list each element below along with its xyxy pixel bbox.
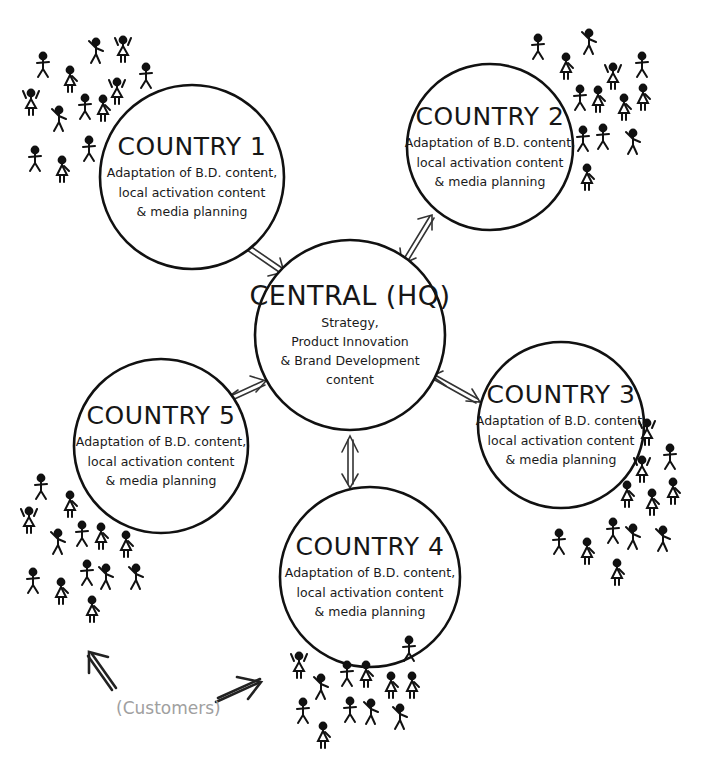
central-desc-line: Product Innovation (280, 333, 419, 352)
customers-arrow-left (88, 652, 116, 690)
central-desc-line: & Brand Development (280, 352, 419, 371)
central-hq-node: CENTRAL (HQ) Strategy, Product Innovatio… (255, 240, 445, 430)
country-4-title: COUNTRY 4 (296, 533, 445, 561)
country-5-description: Adaptation of B.D. content, local activa… (76, 432, 246, 490)
country-4-description: Adaptation of B.D. content, local activa… (285, 563, 455, 621)
country-desc-line: & media planning (285, 602, 455, 621)
country-desc-line: Adaptation of B.D. content, (107, 163, 277, 182)
country-3-description: Adaptation of B.D. content, local activa… (476, 411, 646, 469)
country-desc-line: & media planning (476, 450, 646, 469)
country-1-title: COUNTRY 1 (118, 133, 267, 161)
connection-central-country-4 (342, 436, 358, 488)
country-2-description: Adaptation of B.D. content, local activa… (405, 133, 575, 191)
customers-arrow-right (216, 677, 261, 702)
country-1-node: COUNTRY 1 Adaptation of B.D. content, lo… (100, 90, 284, 264)
country-desc-line: & media planning (76, 471, 246, 490)
country-desc-line: & media planning (405, 172, 575, 191)
central-hq-description: Strategy, Product Innovation & Brand Dev… (280, 314, 419, 389)
country-2-node: COUNTRY 2 Adaptation of B.D. content, lo… (405, 64, 575, 230)
country-3-node: COUNTRY 3 Adaptation of B.D. content, lo… (476, 342, 646, 508)
country-5-title: COUNTRY 5 (87, 402, 236, 430)
country-desc-line: local activation content (405, 153, 575, 172)
country-desc-line: & media planning (107, 202, 277, 221)
country-1-description: Adaptation of B.D. content, local activa… (107, 163, 277, 221)
central-hq-title: CENTRAL (HQ) (250, 281, 451, 311)
country-3-title: COUNTRY 3 (487, 381, 636, 409)
country-desc-line: local activation content (285, 583, 455, 602)
country-desc-line: Adaptation of B.D. content, (76, 432, 246, 451)
central-desc-line: Strategy, (280, 314, 419, 333)
country-5-node: COUNTRY 5 Adaptation of B.D. content, lo… (74, 362, 248, 530)
country-2-title: COUNTRY 2 (416, 103, 565, 131)
country-desc-line: Adaptation of B.D. content, (405, 133, 575, 152)
customers-annotation: (Customers) (116, 698, 221, 718)
central-desc-line: content (280, 371, 419, 390)
country-desc-line: local activation content (476, 431, 646, 450)
country-desc-line: Adaptation of B.D. content, (476, 411, 646, 430)
country-desc-line: local activation content (107, 183, 277, 202)
country-desc-line: Adaptation of B.D. content, (285, 563, 455, 582)
country-4-node: COUNTRY 4 Adaptation of B.D. content, lo… (280, 490, 460, 664)
country-desc-line: local activation content (76, 452, 246, 471)
